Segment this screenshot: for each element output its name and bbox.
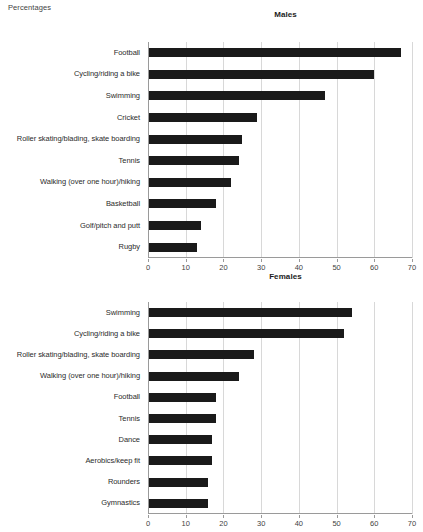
bar-females-9 [148, 499, 208, 508]
bars-males [148, 42, 412, 258]
bar-females-6 [148, 435, 212, 444]
tick-label: 40 [295, 263, 303, 272]
bar-males-6 [148, 178, 231, 187]
category-label: Aerobics/keep fit [0, 456, 140, 465]
chart-panel-females: Females SwimmingCycling/riding a bikeRol… [0, 272, 423, 532]
tick-mark [148, 515, 149, 518]
category-label: Rugby [0, 242, 140, 251]
gridline [412, 42, 413, 258]
tick-mark [186, 515, 187, 518]
tick-mark [299, 259, 300, 262]
category-label: Cycling/riding a bike [0, 329, 140, 338]
tick-mark [223, 515, 224, 518]
x-axis-males [148, 257, 412, 258]
bars-females [148, 302, 412, 514]
category-labels-males: FootballCycling/riding a bikeSwimmingCri… [0, 42, 144, 258]
tick-mark [299, 515, 300, 518]
bar-row [148, 85, 412, 107]
plot-area-males [148, 42, 412, 258]
category-label: Cycling/riding a bike [0, 69, 140, 78]
bar-row [148, 302, 412, 323]
tick-mark [186, 259, 187, 262]
gridline [412, 302, 413, 514]
category-label: Rounders [0, 477, 140, 486]
bar-row [148, 193, 412, 215]
bar-males-7 [148, 199, 216, 208]
tick-label: 0 [146, 519, 150, 528]
category-label: Roller skating/blading, skate boarding [0, 134, 140, 143]
tick-mark [374, 259, 375, 262]
bar-row [148, 450, 412, 471]
bar-row [148, 236, 412, 258]
bar-males-2 [148, 91, 325, 100]
bar-row [148, 408, 412, 429]
tick-label: 10 [182, 519, 190, 528]
category-label: Basketball [0, 199, 140, 208]
category-label: Golf/pitch and putt [0, 221, 140, 230]
bar-males-9 [148, 243, 197, 252]
chart-title-males: Males [148, 10, 423, 19]
chart-title-females: Females [148, 272, 423, 281]
category-label: Gymnastics [0, 498, 140, 507]
bar-row [148, 172, 412, 194]
bar-row [148, 493, 412, 514]
tick-label: 10 [182, 263, 190, 272]
tick-mark [148, 259, 149, 262]
bar-row [148, 429, 412, 450]
bar-row [148, 64, 412, 86]
chart-page: Percentages Males FootballCycling/riding… [0, 0, 423, 532]
x-tick-labels-females: 010203040506070 [148, 515, 412, 529]
bar-males-5 [148, 156, 239, 165]
category-label: Cricket [0, 113, 140, 122]
bar-row [148, 387, 412, 408]
chart-panel-males: Males FootballCycling/riding a bikeSwimm… [0, 10, 423, 272]
tick-mark [261, 259, 262, 262]
tick-label: 30 [257, 263, 265, 272]
tick-label: 30 [257, 519, 265, 528]
tick-mark [412, 515, 413, 518]
bar-males-8 [148, 221, 201, 230]
x-tick-labels-males: 010203040506070 [148, 259, 412, 273]
category-label: Swimming [0, 91, 140, 100]
category-label: Walking (over one hour)/hiking [0, 371, 140, 380]
category-label: Swimming [0, 308, 140, 317]
tick-label: 40 [295, 519, 303, 528]
bar-females-5 [148, 414, 216, 423]
bar-males-1 [148, 70, 374, 79]
category-label: Football [0, 48, 140, 57]
category-label: Football [0, 392, 140, 401]
tick-label: 0 [146, 263, 150, 272]
bar-row [148, 472, 412, 493]
bar-females-8 [148, 478, 208, 487]
tick-mark [337, 515, 338, 518]
category-label: Walking (over one hour)/hiking [0, 177, 140, 186]
bar-row [148, 215, 412, 237]
category-labels-females: SwimmingCycling/riding a bikeRoller skat… [0, 302, 144, 514]
bar-row [148, 323, 412, 344]
tick-label: 50 [332, 519, 340, 528]
bar-males-0 [148, 48, 401, 57]
x-axis-females [148, 513, 412, 514]
bar-females-3 [148, 372, 239, 381]
category-label: Roller skating/blading, skate boarding [0, 350, 140, 359]
bar-males-4 [148, 135, 242, 144]
category-label: Tennis [0, 414, 140, 423]
bar-row [148, 150, 412, 172]
bar-row [148, 107, 412, 129]
tick-mark [337, 259, 338, 262]
tick-label: 60 [370, 519, 378, 528]
bar-row [148, 42, 412, 64]
bar-females-0 [148, 308, 352, 317]
bar-females-1 [148, 329, 344, 338]
tick-mark [223, 259, 224, 262]
y-axis-females [148, 302, 149, 514]
category-label: Tennis [0, 156, 140, 165]
bar-row [148, 344, 412, 365]
plot-area-females [148, 302, 412, 514]
tick-mark [261, 515, 262, 518]
bar-females-4 [148, 393, 216, 402]
bar-females-2 [148, 350, 254, 359]
bar-row [148, 366, 412, 387]
tick-label: 20 [219, 263, 227, 272]
y-axis-males [148, 42, 149, 258]
